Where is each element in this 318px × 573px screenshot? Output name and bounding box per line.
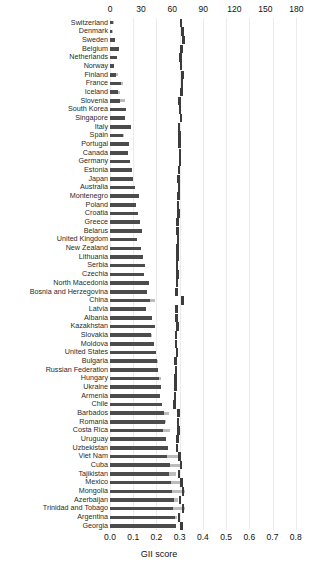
value-marker — [179, 149, 182, 157]
rank-bar — [110, 394, 160, 398]
value-marker — [175, 314, 178, 322]
chart-row: Georgia — [0, 521, 318, 530]
value-marker — [176, 244, 179, 252]
value-marker — [178, 131, 181, 139]
rank-bar — [110, 490, 172, 494]
value-marker — [176, 444, 179, 452]
rank-bar — [110, 56, 117, 60]
value-marker — [181, 71, 184, 79]
rank-bar — [110, 247, 141, 251]
value-marker — [182, 36, 185, 44]
rank-bar — [110, 368, 158, 372]
rank-bar — [110, 229, 142, 233]
rank-bar — [110, 142, 129, 146]
value-marker — [182, 487, 185, 495]
value-marker — [178, 452, 181, 460]
rank-bar — [110, 481, 171, 485]
bottom-axis-tick: 0.1 — [127, 532, 139, 542]
rank-bar — [110, 507, 173, 511]
rank-bar — [110, 420, 165, 424]
rank-bar — [110, 455, 167, 459]
value-marker — [176, 279, 179, 287]
rank-bar — [110, 316, 152, 320]
rank-bar — [110, 47, 119, 51]
value-marker — [177, 409, 180, 417]
value-marker — [180, 45, 183, 53]
value-marker — [178, 513, 181, 521]
value-marker — [173, 400, 176, 408]
rank-bar — [110, 73, 116, 77]
rank-bar — [110, 186, 135, 190]
value-marker — [175, 331, 178, 339]
value-marker — [177, 175, 180, 183]
rank-bar — [110, 160, 130, 164]
value-marker — [176, 253, 179, 261]
rank-bar — [110, 30, 112, 34]
bottom-axis-tick: 0.2 — [151, 532, 163, 542]
value-marker — [180, 522, 183, 530]
value-marker — [180, 88, 183, 96]
rank-bar — [110, 446, 168, 450]
rank-bar — [110, 281, 149, 285]
value-marker — [180, 461, 183, 469]
value-marker — [179, 496, 182, 504]
value-marker — [176, 227, 179, 235]
value-marker — [174, 392, 177, 400]
value-marker — [177, 426, 180, 434]
value-marker — [180, 114, 183, 122]
value-marker — [177, 418, 180, 426]
top-axis-tick: 150 — [258, 4, 272, 14]
rank-bar — [110, 342, 154, 346]
rank-bar — [110, 411, 164, 415]
value-marker — [175, 366, 178, 374]
rank-bar — [110, 82, 121, 86]
rank-bar — [110, 99, 120, 103]
value-marker — [174, 383, 177, 391]
value-marker — [180, 478, 183, 486]
rank-bar — [110, 273, 144, 277]
value-marker — [179, 105, 182, 113]
value-marker — [181, 296, 184, 304]
value-marker — [181, 27, 184, 35]
value-marker — [177, 235, 180, 243]
rank-bar — [110, 498, 174, 502]
rank-bar — [110, 290, 147, 294]
rank-bar — [110, 516, 175, 520]
rank-bar — [110, 220, 140, 224]
rank-bar — [110, 212, 138, 216]
bottom-axis-tick: 0.6 — [243, 532, 255, 542]
rank-bar — [110, 524, 176, 528]
plot-area: SwitzerlandDenmarkSwedenBelgiumNetherlan… — [0, 18, 318, 530]
rank-bar — [110, 64, 114, 68]
value-marker — [177, 201, 180, 209]
value-marker — [178, 123, 181, 131]
value-marker — [179, 53, 182, 61]
value-marker — [182, 504, 185, 512]
value-marker — [176, 270, 179, 278]
top-axis-tick: 0 — [108, 4, 113, 14]
rank-bar — [110, 437, 166, 441]
rank-bar — [110, 194, 139, 198]
rank-bar — [110, 125, 131, 129]
top-axis-tick: 90 — [198, 4, 207, 14]
value-marker — [178, 97, 181, 105]
rank-bar — [110, 377, 159, 381]
x-axis-title: GII score — [0, 549, 318, 559]
value-marker — [174, 374, 177, 382]
value-marker — [176, 218, 179, 226]
value-marker — [176, 348, 179, 356]
bottom-axis-tick: 0.3 — [174, 532, 186, 542]
bottom-axis-tick: 0.7 — [267, 532, 279, 542]
top-axis: 0306090120150180 — [0, 4, 318, 18]
value-marker — [178, 183, 181, 191]
bottom-axis-tick: 0.8 — [290, 532, 302, 542]
rank-bar — [110, 116, 125, 120]
rank-bar — [110, 90, 118, 94]
rank-bar — [110, 359, 157, 363]
rank-bar — [110, 238, 137, 242]
country-label: Georgia — [0, 521, 108, 531]
value-marker — [180, 62, 183, 70]
value-marker — [176, 322, 179, 330]
rank-bar — [110, 264, 145, 268]
rank-bar — [110, 307, 146, 311]
